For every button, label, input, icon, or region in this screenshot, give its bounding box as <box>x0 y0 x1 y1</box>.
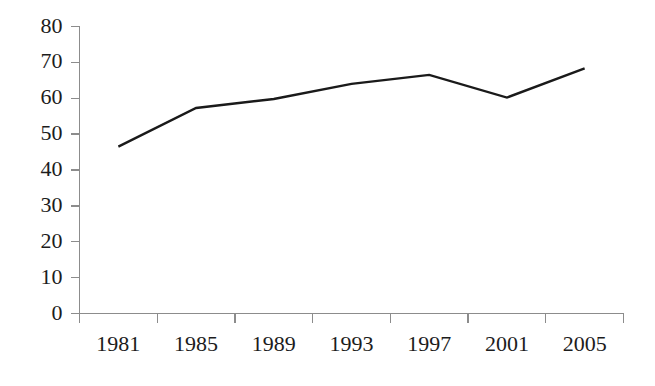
y-axis-labels: 01020304050607080 <box>41 13 63 325</box>
y-axis-tick-label: 60 <box>41 84 63 109</box>
x-axis-tick-label: 1981 <box>96 331 140 356</box>
x-axis-tick-label: 1997 <box>407 331 451 356</box>
y-axis-tick-label: 50 <box>41 120 63 145</box>
chart-canvas: 01020304050607080 1981198519891993199720… <box>0 0 655 386</box>
x-axis-tick-label: 1993 <box>330 331 374 356</box>
y-axis-tick-label: 0 <box>52 300 63 325</box>
y-axis-tick-label: 70 <box>41 48 63 73</box>
y-axis-tick-label: 80 <box>41 13 63 38</box>
y-axis-tick-label: 10 <box>41 264 63 289</box>
x-axis-tick-label: 1985 <box>174 331 218 356</box>
x-axis-tick-label: 2005 <box>563 331 607 356</box>
chart-background <box>0 0 655 386</box>
x-axis-tick-label: 1989 <box>252 331 296 356</box>
y-axis-tick-label: 20 <box>41 228 63 253</box>
line-chart: 01020304050607080 1981198519891993199720… <box>0 0 655 386</box>
y-axis-tick-label: 40 <box>41 156 63 181</box>
y-axis-tick-label: 30 <box>41 192 63 217</box>
x-axis-tick-label: 2001 <box>485 331 529 356</box>
